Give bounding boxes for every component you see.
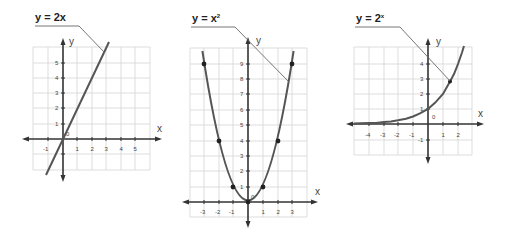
x-axis-left-arrow-icon bbox=[182, 200, 189, 205]
y-tick-label: -1 bbox=[418, 137, 424, 143]
x-tick-label: 4 bbox=[120, 146, 124, 152]
graph-quadratic: -3 -2 -1 1 2 3 1 2 3 4 5 6 7 8 9 0 x y y… bbox=[182, 12, 320, 228]
x-axis-left-arrow-icon bbox=[346, 122, 353, 127]
point bbox=[231, 185, 236, 190]
x-tick-label: 2 bbox=[457, 132, 461, 138]
x-axis-label: x bbox=[315, 186, 320, 197]
y-axis-up-arrow-icon bbox=[426, 38, 431, 45]
point bbox=[290, 62, 295, 67]
y-axis-label: y bbox=[69, 36, 74, 47]
point bbox=[448, 80, 452, 84]
x-tick-label: 2 bbox=[277, 209, 281, 215]
graph-title: y = x2 bbox=[192, 12, 221, 24]
x-tick-label: -1 bbox=[43, 146, 49, 152]
point bbox=[261, 185, 266, 190]
x-axis-right-arrow-icon bbox=[477, 122, 484, 127]
x-tick-label: -4 bbox=[365, 132, 371, 138]
x-tick-label: 3 bbox=[291, 209, 295, 215]
x-tick-label: 1 bbox=[262, 209, 266, 215]
x-tick-label: 1 bbox=[76, 146, 80, 152]
x-axis-label: x bbox=[478, 108, 483, 119]
graph-title: y = 2x bbox=[356, 12, 385, 24]
x-tick-label: -2 bbox=[215, 209, 221, 215]
x-tick-label: -2 bbox=[394, 132, 400, 138]
grid-exponential bbox=[354, 47, 472, 155]
x-axis-right-arrow-icon bbox=[311, 200, 318, 205]
graph-linear: -1 1 2 3 4 5 1 2 3 4 5 0 x y y = 2x bbox=[22, 11, 162, 182]
y-axis-up-arrow-icon bbox=[61, 38, 66, 45]
point bbox=[246, 200, 251, 205]
x-tick-label: -1 bbox=[409, 132, 415, 138]
y-axis-down-arrow-icon bbox=[246, 221, 251, 228]
x-tick-label: 1 bbox=[442, 132, 446, 138]
x-tick-label: 3 bbox=[105, 146, 109, 152]
point bbox=[217, 139, 222, 144]
y-axis-label: y bbox=[436, 36, 441, 47]
x-axis-label: x bbox=[157, 123, 162, 134]
x-axis-right-arrow-icon bbox=[155, 137, 162, 142]
y-axis-label: y bbox=[256, 35, 261, 46]
point bbox=[276, 139, 281, 144]
point bbox=[202, 62, 207, 67]
x-tick-label: -3 bbox=[380, 132, 386, 138]
y-axis-down-arrow-icon bbox=[61, 175, 66, 182]
curve-y-2-pow-x bbox=[354, 46, 464, 124]
origin-label: 0 bbox=[432, 114, 436, 120]
y-axis-down-arrow-icon bbox=[426, 157, 431, 164]
function-graphs-figure: -1 1 2 3 4 5 1 2 3 4 5 0 x y y = 2x bbox=[0, 0, 507, 235]
x-axis-left-arrow-icon bbox=[22, 137, 29, 142]
graph-title: y = 2x bbox=[35, 11, 67, 23]
x-tick-label: -3 bbox=[200, 209, 206, 215]
x-tick-label: -1 bbox=[229, 209, 235, 215]
x-tick-label: 2 bbox=[91, 146, 95, 152]
x-tick-label: 5 bbox=[134, 146, 138, 152]
graph-exponential: -4 -3 -2 -1 1 2 -1 1 2 3 4 0 x y y = 2x bbox=[346, 12, 484, 164]
